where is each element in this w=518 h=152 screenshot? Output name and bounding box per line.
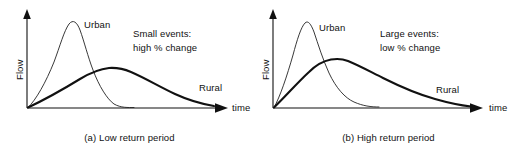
x-axis-label: time: [232, 102, 250, 114]
urban-series-label: Urban: [84, 19, 110, 31]
urban-series-label: Urban: [319, 22, 345, 34]
urban-hydrograph-curve: [274, 22, 379, 107]
annotation-line-1: Large events:: [380, 27, 439, 41]
annotation-line-2: low % change: [380, 41, 440, 55]
y-axis-label: Flow: [14, 60, 26, 80]
panel-b-plot: [259, 0, 518, 152]
rural-hydrograph-curve: [28, 68, 214, 108]
panel-a-plot: [0, 0, 259, 152]
y-axis-arrowhead: [23, 9, 31, 19]
rural-series-label: Rural: [199, 82, 222, 94]
y-axis-label: Flow: [260, 60, 272, 80]
x-axis-arrowhead: [470, 103, 483, 113]
panel-caption: (b) High return period: [259, 132, 518, 144]
y-axis-arrowhead: [269, 9, 277, 19]
x-axis-arrowhead: [215, 103, 228, 113]
x-axis-label: time: [489, 102, 507, 114]
panel-low-return-period: Flow time Urban Rural Small events: high…: [0, 0, 259, 152]
annotation-line-1: Small events:: [133, 27, 191, 41]
urban-hydrograph-curve: [28, 22, 134, 108]
rural-series-label: Rural: [436, 84, 459, 96]
annotation-line-2: high % change: [133, 41, 197, 55]
hydrograph-figure: Flow time Urban Rural Small events: high…: [0, 0, 518, 152]
panel-caption: (a) Low return period: [0, 132, 259, 144]
panel-high-return-period: Flow time Urban Rural Large events: low …: [259, 0, 518, 152]
